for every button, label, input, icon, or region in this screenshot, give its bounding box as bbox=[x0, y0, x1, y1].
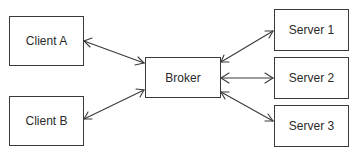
client-a-box: Client A bbox=[9, 16, 84, 66]
client-b-label: Client B bbox=[25, 114, 67, 128]
server-1-box: Server 1 bbox=[274, 9, 349, 51]
edge-client-a-broker bbox=[84, 38, 144, 65]
server-2-label: Server 2 bbox=[289, 71, 334, 85]
server-3-label: Server 3 bbox=[289, 119, 334, 133]
server-1-label: Server 1 bbox=[289, 23, 334, 37]
edge-broker-server-1 bbox=[221, 31, 273, 62]
server-3-box: Server 3 bbox=[274, 105, 349, 147]
client-b-box: Client B bbox=[9, 96, 84, 146]
broker-label: Broker bbox=[165, 71, 200, 85]
edge-broker-server-3 bbox=[221, 92, 273, 121]
client-a-label: Client A bbox=[26, 34, 67, 48]
broker-box: Broker bbox=[145, 57, 221, 98]
edge-broker-server-2 bbox=[221, 73, 273, 83]
edge-client-b-broker bbox=[84, 89, 144, 119]
server-2-box: Server 2 bbox=[274, 57, 349, 99]
